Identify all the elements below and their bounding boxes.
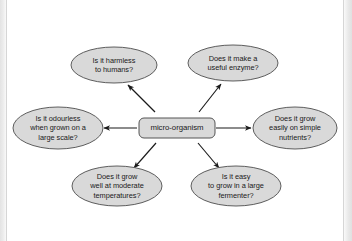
connector-arrow-grow-moderate-temperatures [134, 143, 156, 168]
node-shape-layer [13, 45, 337, 206]
connector-arrow-harmless-to-humans [128, 85, 155, 112]
node-grow-simple-nutrients[interactable] [253, 107, 337, 149]
node-odourless-large-scale[interactable] [13, 107, 103, 149]
node-center-micro-organism[interactable] [139, 118, 215, 138]
diagram-canvas: Is it harmlessto humans?Does it make aus… [0, 0, 352, 241]
node-useful-enzyme[interactable] [188, 45, 278, 81]
connector-arrow-easy-grow-large-fermenter [198, 143, 219, 168]
connector-arrow-useful-enzyme [199, 84, 221, 112]
node-harmless-to-humans[interactable] [71, 47, 157, 83]
node-easy-grow-large-fermenter[interactable] [191, 166, 281, 206]
spider-diagram [0, 0, 352, 241]
node-grow-moderate-temperatures[interactable] [72, 166, 162, 206]
